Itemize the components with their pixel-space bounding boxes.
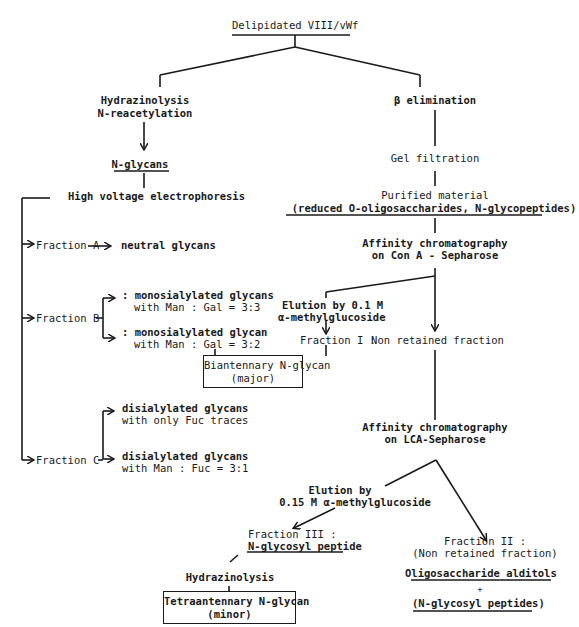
biantennary-label: Biantennary N-glycan <box>204 359 302 372</box>
root-node-label: Delipidated VIII/vWf <box>232 19 352 32</box>
fraction-c-result-1-note: with only Fuc traces <box>122 414 248 427</box>
plus-sign: + <box>405 583 555 596</box>
fraction-3-product: N-glycosyl peptide <box>248 540 362 553</box>
fraction-a-result: neutral glycans <box>121 239 216 252</box>
fraction-a-label: Fraction A <box>36 239 99 252</box>
con-a-sepharose-label: on Con A - Sepharose <box>360 249 510 262</box>
elution-1-reagent: α-methylglucoside <box>278 311 385 324</box>
glycosyl-peptides-label: (N-glycosyl peptides) <box>412 597 545 610</box>
elution-2-reagent: 0.15 M α-methylglucoside <box>270 496 440 509</box>
fraction-b-result-1-ratio: with Man : Gal = 3:3 <box>134 301 260 314</box>
n-glycans-label: N-glycans <box>104 158 176 171</box>
electrophoresis-label: High voltage electrophoresis <box>68 190 245 203</box>
beta-elimination-label: β elimination <box>380 94 490 107</box>
non-retained-fraction-label: Non retained fraction <box>370 334 505 347</box>
oligosaccharide-alditols-label: Oligosaccharide alditols <box>405 567 555 580</box>
gel-filtration-label: Gel filtration <box>380 152 490 165</box>
fraction-c-label: Fraction C <box>36 454 99 467</box>
fraction-1-label: Fraction I : <box>300 334 376 347</box>
hydrazinolysis-label: Hydrazinolysis <box>85 94 205 107</box>
fraction-b-label: Fraction B <box>36 312 99 325</box>
tetraantennary-box: Tetraantennary N-glycan (minor) <box>163 591 296 624</box>
purified-material-contents: (reduced O-oligosaccharides, N-glycopept… <box>284 202 579 215</box>
biantennary-box: Biantennary N-glycan (major) <box>203 355 303 388</box>
lca-sepharose-label: on LCA-Sepharose <box>360 433 510 446</box>
biantennary-note: (major) <box>204 372 302 385</box>
fraction-b-result-2-ratio: with Man : Gal = 3:2 <box>134 338 260 351</box>
purified-material-label: Purified material <box>360 189 510 202</box>
tetraantennary-label: Tetraantennary N-glycan <box>164 595 295 608</box>
tetraantennary-note: (minor) <box>164 608 295 621</box>
reacetylation-label: N-reacetylation <box>85 107 205 120</box>
hydrazinolysis-2-label: Hydrazinolysis <box>185 571 275 584</box>
fraction-c-result-2-ratio: with Man : Fuc = 3:1 <box>122 462 248 475</box>
fraction-2-note: (Non retained fraction) <box>405 547 565 560</box>
